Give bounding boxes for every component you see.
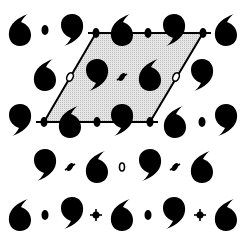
twofold-axis-ring-icon [120, 163, 125, 171]
twofold-axis-dot-icon [145, 28, 152, 38]
twofold-axis-dot-icon [147, 117, 154, 127]
comma-motif-nine-icon [191, 59, 213, 91]
comma-motif-nine-icon [9, 104, 31, 136]
twofold-axis-dot-icon [200, 28, 207, 38]
comma-motif-nine-icon [215, 104, 237, 136]
twofold-axis-dot-icon [93, 28, 100, 38]
twofold-axis-plus-icon [194, 209, 206, 221]
comma-motif-nine-icon [139, 149, 161, 181]
twofold-axis-dot-icon [94, 117, 101, 127]
comma-motif-six-icon [9, 14, 31, 46]
comma-motif-six-icon [9, 199, 31, 231]
comma-motif-six-icon [164, 106, 186, 138]
twofold-axis-dot-icon [145, 210, 152, 220]
twofold-axis-dot-icon [199, 117, 206, 127]
comma-motif-nine-icon [61, 14, 83, 46]
comma-motif-six-icon [111, 14, 133, 46]
comma-motif-six-icon [86, 151, 108, 183]
comma-motif-six-icon [215, 14, 237, 46]
twofold-axis-dot-icon [41, 117, 48, 127]
comma-motif-nine-icon [61, 197, 83, 229]
comma-motif-six-icon [191, 151, 213, 183]
twofold-axis-dot-icon [42, 210, 49, 220]
comma-motif-nine-icon [34, 149, 56, 181]
twofold-axis-plus-icon [90, 209, 102, 221]
pattern-canvas [0, 0, 246, 240]
comma-motif-nine-icon [163, 197, 185, 229]
comma-motif-six-icon [215, 199, 237, 231]
twofold-axis-cross-icon [170, 162, 180, 172]
twofold-axis-cross-icon [65, 162, 75, 172]
plane-group-diagram [0, 0, 246, 240]
twofold-axis-dot-icon [42, 25, 49, 35]
comma-motif-six-icon [34, 59, 56, 91]
comma-motif-six-icon [111, 199, 133, 231]
comma-motif-nine-icon [111, 104, 133, 136]
